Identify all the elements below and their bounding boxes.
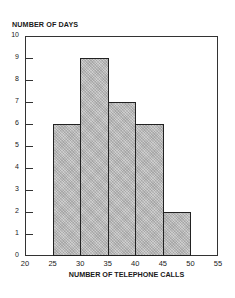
y-tick-mark <box>25 124 33 125</box>
x-tick-label: 20 <box>15 259 35 268</box>
y-tick-mark <box>25 212 33 213</box>
x-tick-label: 45 <box>153 259 173 268</box>
y-tick-mark <box>25 234 33 235</box>
y-tick-label: 2 <box>5 207 19 214</box>
histogram-bar <box>163 212 192 256</box>
x-tick-label: 30 <box>70 259 90 268</box>
y-tick-mark <box>25 168 33 169</box>
histogram-bar <box>135 124 164 256</box>
y-tick-mark <box>25 58 33 59</box>
histogram-bar <box>80 58 109 256</box>
y-tick-mark <box>25 80 33 81</box>
x-tick-label: 50 <box>180 259 200 268</box>
histogram-bar <box>53 124 82 256</box>
y-tick-label: 6 <box>5 119 19 126</box>
y-tick-label: 5 <box>5 141 19 148</box>
y-tick-label: 10 <box>5 31 19 38</box>
y-tick-label: 4 <box>5 163 19 170</box>
y-tick-mark <box>25 146 33 147</box>
histogram-bar <box>108 102 137 256</box>
x-tick-label: 25 <box>43 259 63 268</box>
x-tick-label: 40 <box>125 259 145 268</box>
y-axis-title: NUMBER OF DAYS <box>12 20 78 29</box>
y-tick-mark <box>25 102 33 103</box>
y-tick-label: 0 <box>5 251 19 258</box>
y-tick-label: 9 <box>5 53 19 60</box>
y-tick-label: 1 <box>5 229 19 236</box>
x-tick-label: 35 <box>98 259 118 268</box>
y-tick-label: 3 <box>5 185 19 192</box>
x-tick-label: 55 <box>208 259 228 268</box>
y-tick-mark <box>25 190 33 191</box>
x-axis-title: NUMBER OF TELEPHONE CALLS <box>0 270 235 279</box>
y-tick-label: 7 <box>5 97 19 104</box>
y-tick-label: 8 <box>5 75 19 82</box>
